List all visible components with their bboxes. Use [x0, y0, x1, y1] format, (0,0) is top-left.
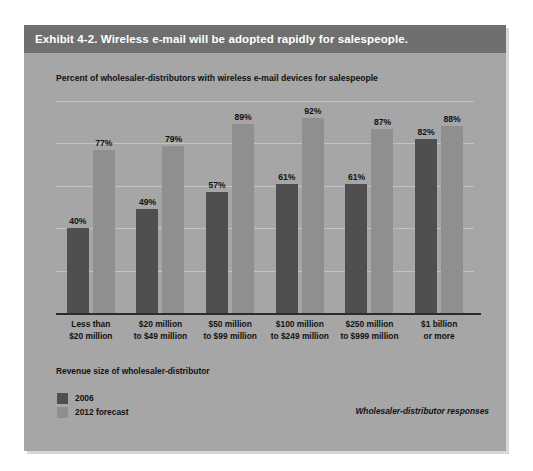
bar-2012-forecast: 92% [302, 118, 324, 313]
exhibit-title: Exhibit 4-2. Wireless e-mail will be ado… [24, 33, 408, 45]
bar-value-label: 79% [165, 134, 182, 144]
bar-2012-forecast: 77% [93, 150, 115, 313]
bar-group: 57%89% [195, 101, 265, 313]
chart-subtitle: Percent of wholesaler-distributors with … [56, 73, 378, 83]
category-label-line: or more [394, 331, 484, 343]
bar-group: 40%77% [56, 101, 126, 313]
bar-2006: 57% [206, 192, 228, 313]
bar-group: 82%88% [404, 101, 474, 313]
legend-swatch [57, 393, 68, 404]
chart-footnote: Wholesaler-distributor responses [355, 406, 489, 416]
chart-bars-area: 40%77%49%79%57%89%61%92%61%87%82%88% [56, 101, 474, 313]
exhibit-card: Exhibit 4-2. Wireless e-mail will be ado… [24, 25, 506, 451]
chart-category-labels: Less than$20 million$20 millionto $49 mi… [56, 319, 474, 351]
bar-2006: 61% [276, 184, 298, 313]
bar-value-label: 87% [374, 117, 391, 127]
legend-item: 2012 forecast [57, 405, 129, 419]
bar-value-label: 82% [418, 127, 435, 137]
legend-swatch [57, 407, 68, 418]
bar-group: 49%79% [126, 101, 196, 313]
legend-label: 2012 forecast [75, 407, 129, 417]
bar-value-label: 49% [139, 197, 156, 207]
bar-2006: 82% [415, 139, 437, 313]
bar-group: 61%92% [265, 101, 335, 313]
bar-2012-forecast: 88% [441, 126, 463, 313]
bar-value-label: 92% [304, 106, 321, 116]
bar-2012-forecast: 79% [162, 146, 184, 313]
x-axis-title: Revenue size of wholesaler-distributor [56, 366, 210, 376]
bar-value-label: 77% [95, 138, 112, 148]
legend-label: 2006 [75, 393, 94, 403]
bar-2012-forecast: 89% [232, 124, 254, 313]
bar-2006: 40% [67, 228, 89, 313]
bar-group: 61%87% [335, 101, 405, 313]
category-label: $1 billionor more [394, 319, 484, 342]
bar-value-label: 61% [278, 172, 295, 182]
legend-item: 2006 [57, 391, 129, 405]
chart-axis-line [56, 313, 481, 315]
bar-2012-forecast: 87% [371, 129, 393, 313]
category-label-line: $1 billion [394, 319, 484, 331]
screenshot-root: Exhibit 4-2. Wireless e-mail will be ado… [0, 0, 533, 471]
bar-value-label: 40% [69, 216, 86, 226]
bar-value-label: 88% [444, 114, 461, 124]
bar-2006: 49% [136, 209, 158, 313]
bar-value-label: 61% [348, 172, 365, 182]
bar-value-label: 89% [235, 112, 252, 122]
exhibit-header-band: Exhibit 4-2. Wireless e-mail will be ado… [24, 25, 506, 53]
bar-value-label: 57% [209, 180, 226, 190]
chart-legend: 20062012 forecast [57, 391, 129, 419]
bar-2006: 61% [345, 184, 367, 313]
